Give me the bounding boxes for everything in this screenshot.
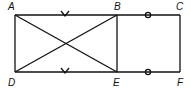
label-b: B [114, 1, 121, 12]
label-d: D [8, 77, 15, 88]
geometry-diagram: A B C D E F [0, 0, 191, 90]
label-c: C [176, 1, 184, 12]
label-a: A [7, 1, 15, 12]
label-e: E [113, 77, 120, 88]
label-f: F [177, 77, 184, 88]
